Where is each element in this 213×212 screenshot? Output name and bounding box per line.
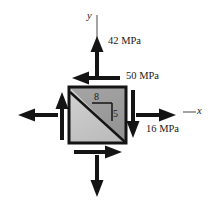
normal-stress-arrow-left	[18, 109, 58, 122]
slope-triangle-vertical-label: 5	[113, 109, 118, 119]
y-axis-label: y	[87, 11, 92, 22]
normal-stress-arrow-down	[91, 155, 104, 197]
normal-stress-arrow-up	[91, 36, 104, 76]
normal-stress-arrow-right	[136, 109, 176, 122]
stress-element-figure: 42 MPa 50 MPa 16 MPa y x 8 5	[0, 0, 213, 212]
stress-label-16mpa: 16 MPa	[146, 124, 179, 135]
x-axis-label: x	[197, 106, 202, 117]
stress-label-42mpa: 42 MPa	[108, 36, 141, 47]
figure-canvas	[0, 0, 213, 212]
stress-label-50mpa: 50 MPa	[126, 71, 159, 82]
slope-triangle-horizontal-label: 8	[94, 92, 99, 102]
